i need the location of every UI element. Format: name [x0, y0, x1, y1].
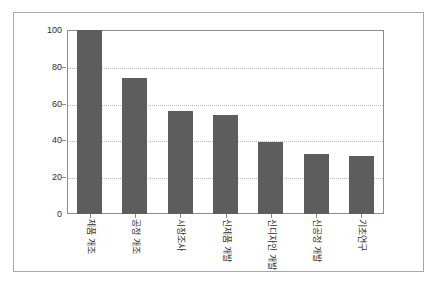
x-axis-ticks	[67, 214, 384, 218]
gridline	[68, 178, 383, 179]
x-axis-tick-label: 신디자인 개발	[264, 219, 278, 286]
x-axis-tick-label: 제품 개조	[83, 219, 97, 286]
gridline	[68, 105, 383, 106]
x-axis-tick-mark	[90, 214, 91, 218]
x-axis-tick-label-text: 신디자인 개발	[266, 219, 275, 270]
x-axis-tick-label: 시장조사	[173, 219, 187, 286]
y-axis-tick-label: 20	[18, 173, 62, 182]
y-axis-tick-mark	[62, 67, 66, 68]
x-axis-tick-label: 신공정 개발	[309, 219, 323, 286]
y-axis-tick-label: 100	[18, 26, 62, 35]
x-axis-tick-label-text: 시장조사	[176, 219, 185, 251]
x-axis-tick-mark	[271, 214, 272, 218]
y-axis: 020406080100	[14, 30, 62, 214]
plot-box	[67, 30, 384, 214]
y-axis-tick-label: 60	[18, 99, 62, 108]
x-axis-tick-mark	[361, 214, 362, 218]
gridline	[68, 141, 383, 142]
gridline	[68, 68, 383, 69]
x-axis-tick-mark	[135, 214, 136, 218]
x-axis-tick-label-text: 기초연구	[357, 219, 366, 251]
y-axis-tick-label: 80	[18, 62, 62, 71]
x-axis-tick-label-text: 신제품 개발	[221, 219, 230, 262]
chart-plot-area: 020406080100 제품 개조공정 개조시장조사신제품 개발신디자인 개발…	[14, 13, 425, 273]
figure-frame: 020406080100 제품 개조공정 개조시장조사신제품 개발신디자인 개발…	[13, 12, 424, 272]
x-axis: 제품 개조공정 개조시장조사신제품 개발신디자인 개발신공정 개발기초연구	[67, 219, 384, 286]
y-axis-tick-label: 40	[18, 136, 62, 145]
x-axis-tick-label-text: 신공정 개발	[312, 219, 321, 262]
x-axis-tick-mark	[180, 214, 181, 218]
x-axis-tick-label-text: 제품 개조	[85, 219, 94, 254]
x-axis-tick-label: 공정 개조	[128, 219, 142, 286]
x-axis-tick-label: 신제품 개발	[219, 219, 233, 286]
x-axis-tick-label: 기초연구	[354, 219, 368, 286]
x-axis-tick-label-text: 공정 개조	[130, 219, 139, 254]
y-axis-tick-mark	[62, 177, 66, 178]
y-axis-tick-mark	[62, 140, 66, 141]
y-axis-tick-mark	[62, 104, 66, 105]
y-axis-tick-label: 0	[18, 210, 62, 219]
x-axis-tick-mark	[226, 214, 227, 218]
x-axis-tick-mark	[316, 214, 317, 218]
